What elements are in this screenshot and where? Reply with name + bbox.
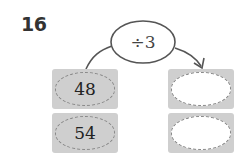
input-box-1: 48 <box>52 69 118 109</box>
answer-field-2[interactable] <box>171 116 231 150</box>
answer-box-2[interactable] <box>168 113 234 153</box>
input-value-2: 54 <box>55 116 115 150</box>
input-box-2: 54 <box>52 113 118 153</box>
operation-label: ÷3 <box>110 20 176 64</box>
answer-box-1[interactable] <box>168 69 234 109</box>
answer-field-1[interactable] <box>171 72 231 106</box>
input-value-1: 48 <box>55 72 115 106</box>
